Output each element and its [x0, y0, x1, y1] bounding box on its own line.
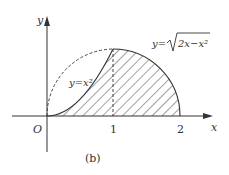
x-tick-1: 1 [110, 123, 117, 136]
parabola-label: y=x² [68, 77, 93, 88]
x-axis-arrow-icon [203, 113, 213, 119]
origin-label: O [33, 123, 42, 136]
svg-text:2x−x²: 2x−x² [177, 38, 208, 49]
y-axis-label: y [36, 14, 44, 27]
y-axis-arrow-icon [44, 16, 50, 26]
shaded-region [40, 40, 190, 120]
x-tick-2: 2 [177, 123, 184, 136]
semicircle-label: y= 2x−x² [151, 33, 210, 51]
svg-text:y=: y= [151, 38, 166, 49]
figure-caption: (b) [85, 152, 101, 165]
x-axis-label: x [211, 121, 218, 134]
figure-canvas: y x O 1 2 y=x² y= 2x−x² (b) [0, 0, 229, 175]
